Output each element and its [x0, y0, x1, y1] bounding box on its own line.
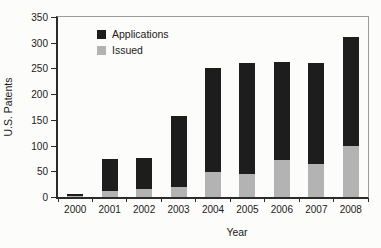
x-tick-label: 2000: [58, 204, 92, 215]
y-tick-mark: [51, 17, 56, 18]
bar-2006: [274, 62, 290, 197]
x-tick-mark: [126, 198, 127, 202]
y-tick-mark: [51, 197, 56, 198]
bar-2007-issued: [308, 164, 324, 197]
bar-2007-applications: [308, 63, 324, 164]
x-tick-label: 2007: [299, 204, 333, 215]
y-tick-label: 0: [14, 192, 48, 203]
y-tick-mark: [51, 171, 56, 172]
y-tick-label: 50: [14, 166, 48, 177]
x-axis-label: Year: [226, 226, 247, 238]
bar-2005-applications: [239, 63, 255, 174]
bar-2008: [343, 37, 359, 197]
bar-2006-applications: [274, 62, 290, 160]
x-tick-mark: [230, 198, 231, 202]
bar-2002: [136, 158, 152, 197]
applications-swatch-icon: [97, 30, 106, 39]
bar-2001-issued: [102, 191, 118, 197]
y-tick-mark: [51, 94, 56, 95]
x-tick-mark: [264, 198, 265, 202]
x-tick-label: 2004: [196, 204, 230, 215]
legend: Applications Issued: [97, 29, 169, 61]
legend-item-issued: Issued: [97, 45, 169, 56]
x-tick-mark: [195, 198, 196, 202]
bar-2005-issued: [239, 174, 255, 197]
y-tick-label: 200: [14, 89, 48, 100]
x-tick-mark: [299, 198, 300, 202]
x-tick-mark: [161, 198, 162, 202]
x-tick-label: 2008: [334, 204, 368, 215]
y-tick-label: 100: [14, 141, 48, 152]
y-tick-mark: [51, 146, 56, 147]
y-tick-label: 250: [14, 63, 48, 74]
x-tick-label: 2006: [265, 204, 299, 215]
bar-2002-applications: [136, 158, 152, 189]
legend-label-applications: Applications: [112, 29, 169, 40]
legend-item-applications: Applications: [97, 29, 169, 40]
x-tick-label: 2003: [162, 204, 196, 215]
y-tick-label: 300: [14, 38, 48, 49]
x-tick-mark: [368, 198, 369, 202]
bar-2002-issued: [136, 189, 152, 197]
y-tick-mark: [51, 43, 56, 44]
y-tick-mark: [51, 68, 56, 69]
bar-2005: [239, 63, 255, 197]
bar-2003-applications: [171, 116, 187, 187]
bar-2008-applications: [343, 37, 359, 146]
x-tick-label: 2005: [230, 204, 264, 215]
bar-2000: [67, 194, 83, 197]
bar-2004-applications: [205, 68, 221, 172]
bar-2004-issued: [205, 172, 221, 197]
issued-swatch-icon: [97, 46, 106, 55]
patents-bar-chart-figure: U.S. Patents Year 050100150200250300350 …: [0, 0, 381, 248]
legend-label-issued: Issued: [112, 45, 143, 56]
bar-2008-issued: [343, 146, 359, 197]
x-tick-label: 2002: [127, 204, 161, 215]
bar-2004: [205, 68, 221, 197]
bar-2003-issued: [171, 187, 187, 197]
bar-2007: [308, 63, 324, 197]
bar-2003: [171, 116, 187, 197]
bar-2001: [102, 159, 118, 197]
y-tick-mark: [51, 120, 56, 121]
x-tick-mark: [92, 198, 93, 202]
bar-2001-applications: [102, 159, 118, 190]
y-tick-label: 150: [14, 115, 48, 126]
x-tick-label: 2001: [93, 204, 127, 215]
x-tick-mark: [58, 198, 59, 202]
bar-2000-issued: [67, 196, 83, 197]
bar-2006-issued: [274, 160, 290, 197]
y-axis-label: U.S. Patents: [2, 72, 14, 142]
x-tick-mark: [333, 198, 334, 202]
y-tick-label: 350: [14, 12, 48, 23]
